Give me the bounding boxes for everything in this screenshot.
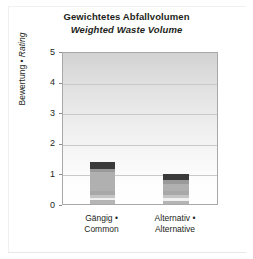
- y-axis-tick-label: 5: [31, 48, 55, 57]
- gridline-1: [63, 175, 217, 176]
- bar-segment-segment-1: [163, 201, 189, 204]
- card-frame-top: [8, 6, 246, 7]
- chart-title-block: Gewichtetes Abfallvolumen Weighted Waste…: [0, 11, 253, 36]
- y-axis-tick-label: 4: [31, 78, 55, 87]
- gridline-4: [63, 84, 217, 85]
- chart-title-en: Weighted Waste Volume: [0, 23, 253, 36]
- y-axis-title-separator: •: [17, 57, 27, 65]
- chart-card: Gewichtetes Abfallvolumen Weighted Waste…: [0, 0, 253, 259]
- stacked-bar: [90, 162, 115, 204]
- y-axis-tick-label: 3: [31, 109, 55, 118]
- y-axis-tick-label: 2: [31, 139, 55, 148]
- plot-area: [62, 52, 218, 205]
- y-axis-tick-mark: [59, 205, 62, 206]
- x-axis-label-de: Alternativ •: [130, 213, 220, 224]
- bar-segment-segment-7: [90, 162, 115, 169]
- y-axis-tick-label: 1: [31, 170, 55, 179]
- x-axis-label-en: Alternative: [130, 224, 220, 235]
- y-axis-title-en: Rating: [17, 33, 27, 58]
- chart-title-de: Gewichtetes Abfallvolumen: [0, 11, 253, 23]
- y-axis-title: Bewertung • Rating: [17, 9, 27, 129]
- card-frame-left: [8, 6, 9, 253]
- y-axis-title-de: Bewertung: [17, 65, 27, 106]
- bar-segment-segment-5: [90, 172, 115, 191]
- gridline-3: [63, 114, 217, 115]
- bar-segment-segment-1: [90, 200, 115, 204]
- x-axis-label: Alternativ •Alternative: [130, 213, 220, 235]
- gridline-2: [63, 145, 217, 146]
- stacked-bar: [163, 174, 189, 204]
- card-frame-bottom: [8, 252, 246, 253]
- y-axis-tick-label: 0: [31, 201, 55, 210]
